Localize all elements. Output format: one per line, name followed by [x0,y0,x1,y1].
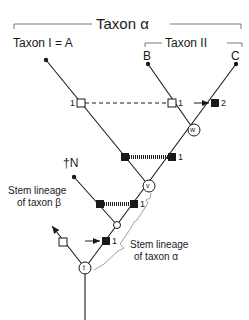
terminal-dot-n [72,175,76,179]
stem-alpha-label-line2: of taxon α [134,252,178,262]
terminal-n-label: †N [63,157,78,169]
node-w-label: w [190,126,195,133]
filled-square-marker-upper-left [121,153,129,161]
terminal-c-label: C [231,50,240,62]
character-number-filled-upper: 1 [178,153,183,162]
stem-beta-label-line1: Stem lineage [8,186,66,196]
character-number-filled-stem: 1 [112,237,117,246]
stem-alpha-label-line1: Stem lineage [130,240,188,250]
character-number-open-left: 1 [70,99,75,108]
filled-square-marker-c [211,99,219,107]
filled-square-marker-upper-right [168,153,176,161]
taxon-one-label: Taxon I = A [13,37,73,49]
open-square-marker-beta [59,238,67,246]
open-square-marker-right [168,99,176,107]
character-number-open-right: 1 [178,99,183,108]
node-v-label: v [146,182,150,189]
node-t-circle [79,262,91,274]
node-small-circle [114,222,121,229]
filled-square-marker-lower-right [130,200,138,208]
character-number-filled-lower: 1 [140,200,145,209]
character-number-filled-c: 2 [221,99,226,108]
taxon-two-label: Taxon II [165,37,207,49]
terminal-dot-a [44,58,48,62]
terminal-b-label: B [143,50,151,62]
open-square-marker-left [77,99,85,107]
taxon-alpha-label: Taxon α [96,16,149,31]
filled-square-marker-lower-left [96,200,104,208]
node-t-label: t [83,264,85,271]
filled-square-marker-stem [102,237,110,245]
stem-beta-label-line2: of taxon β [17,198,61,208]
